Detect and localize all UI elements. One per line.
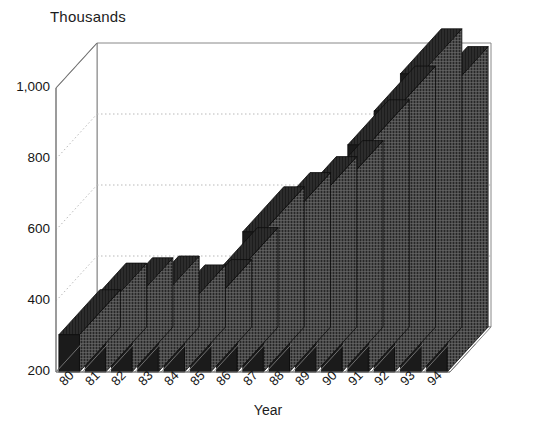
y-tick-label-200: 200 bbox=[4, 363, 50, 378]
x-axis-title: Year bbox=[0, 402, 536, 418]
plot-area bbox=[0, 0, 536, 429]
y-tick-label-800: 800 bbox=[4, 150, 50, 165]
y-tick-label-1000: 1,000 bbox=[4, 79, 50, 94]
bar-chart: Thousands 2004006008001,000 808182838485… bbox=[0, 0, 536, 429]
y-tick-label-600: 600 bbox=[4, 221, 50, 236]
y-tick-label-400: 400 bbox=[4, 292, 50, 307]
bar-front-face bbox=[59, 335, 79, 372]
